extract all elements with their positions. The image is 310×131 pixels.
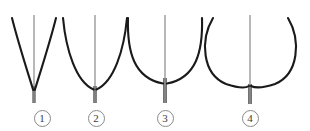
shape-variants-diagram	[0, 0, 310, 131]
figure-container: 1 2 3 4	[0, 0, 310, 131]
canvas-background	[0, 0, 310, 131]
